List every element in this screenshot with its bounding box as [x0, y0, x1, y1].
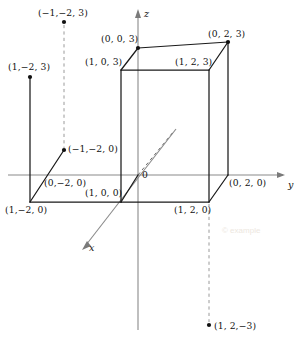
- x-axis-label: x: [89, 243, 94, 253]
- edge-top-back: [138, 42, 228, 48]
- edge-bottom-right-diagonal: [209, 175, 228, 202]
- vertex-dot-0-0-3: [136, 46, 140, 50]
- vertex-dot-m1-m2-3: [62, 20, 66, 24]
- figure-canvas: [0, 0, 301, 337]
- point-label-1-0-0: (1, 0, 0): [85, 188, 122, 197]
- vertex-dot-1-2-m3: [207, 323, 211, 327]
- watermark-text: © example: [222, 226, 260, 235]
- vertex-dot-m1-m2-0: [62, 148, 66, 152]
- edge-left-wing-diagonal: [30, 150, 64, 202]
- z-axis-label: z: [144, 9, 149, 19]
- y-axis-label: y: [288, 180, 293, 190]
- coordinate-figure: (−1,−2, 3) (1,−2, 3) (0, 0, 3) (1, 0, 3)…: [0, 0, 301, 337]
- point-label-m1-m2-0: (−1,−2, 0): [68, 144, 118, 153]
- point-label-1-2-0: (1, 2, 0): [174, 205, 211, 214]
- vertex-dot-1-m2-3: [28, 75, 32, 79]
- point-label-0-m2-0: (0,−2, 0): [44, 178, 86, 187]
- point-label-1-0-3: (1, 0, 3): [85, 57, 122, 66]
- point-label-0-0-3: (0, 0, 3): [101, 34, 138, 43]
- vertex-dot-0-2-3: [226, 40, 230, 44]
- origin-label: 0: [142, 170, 148, 179]
- y-axis-arrow-icon: [277, 172, 285, 178]
- point-label-1-m2-3: (1,−2, 3): [8, 62, 50, 71]
- point-label-m1-m2-3: (−1,−2, 3): [38, 8, 88, 17]
- point-label-1-m2-0: (1,−2, 0): [5, 205, 47, 214]
- point-label-0-2-0: (0, 2, 0): [229, 178, 266, 187]
- point-label-0-2-3: (0, 2, 3): [208, 29, 245, 38]
- edge-bottom-left-diagonal: [121, 175, 138, 202]
- point-label-1-2-m3: (1, 2,−3): [214, 321, 256, 330]
- point-label-1-2-3: (1, 2, 3): [175, 57, 212, 66]
- edge-top-left-diagonal: [121, 48, 138, 70]
- z-axis-arrow-icon: [135, 9, 141, 18]
